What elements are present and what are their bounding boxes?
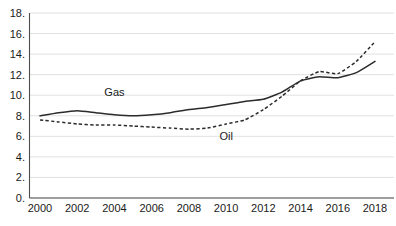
y-axis-line-group — [30, 13, 395, 198]
x-tick-label-2014: 2014 — [288, 202, 312, 214]
y-tick-label-0: 0. — [16, 192, 25, 204]
y-tick-label-14: 14. — [10, 48, 25, 60]
y-tick-label-8: 8. — [16, 110, 25, 122]
x-tick-label-2010: 2010 — [214, 202, 238, 214]
x-tick-labels-group: 2000200220042006200820102012201420162018 — [28, 202, 387, 214]
y-tick-label-16: 16. — [10, 28, 25, 40]
y-tick-label-10: 10. — [10, 89, 25, 101]
x-tick-label-2000: 2000 — [28, 202, 52, 214]
series-line-gas — [40, 61, 375, 115]
series-label-gas: Gas — [104, 86, 125, 98]
x-tick-label-2018: 2018 — [363, 202, 387, 214]
y-tick-label-12: 12. — [10, 69, 25, 81]
x-tick-label-2006: 2006 — [139, 202, 163, 214]
series-label-oil: Oil — [219, 130, 232, 142]
y-tick-label-4: 4. — [16, 151, 25, 163]
y-tick-label-18: 18. — [10, 7, 25, 19]
y-tick-label-2: 2. — [16, 171, 25, 183]
line-chart: 0.2.4.6.8.10.12.14.16.18. 20002002200420… — [0, 0, 396, 226]
x-tick-label-2008: 2008 — [177, 202, 201, 214]
x-tick-label-2004: 2004 — [102, 202, 126, 214]
x-tick-label-2002: 2002 — [65, 202, 89, 214]
chart-canvas: 0.2.4.6.8.10.12.14.16.18. 20002002200420… — [0, 0, 396, 226]
y-tick-labels-group: 0.2.4.6.8.10.12.14.16.18. — [10, 7, 25, 204]
x-tick-label-2012: 2012 — [251, 202, 275, 214]
y-tick-label-6: 6. — [16, 130, 25, 142]
gridlines-group — [30, 13, 395, 198]
series-inline-labels-group: GasOil — [104, 86, 232, 142]
x-tick-label-2016: 2016 — [326, 202, 350, 214]
